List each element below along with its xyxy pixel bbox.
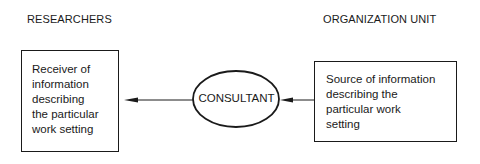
consultant-label: CONSULTANT	[193, 92, 280, 104]
diagram-connectors	[0, 0, 480, 164]
arrowhead-icon	[280, 98, 293, 103]
arrowhead-icon	[124, 98, 138, 103]
